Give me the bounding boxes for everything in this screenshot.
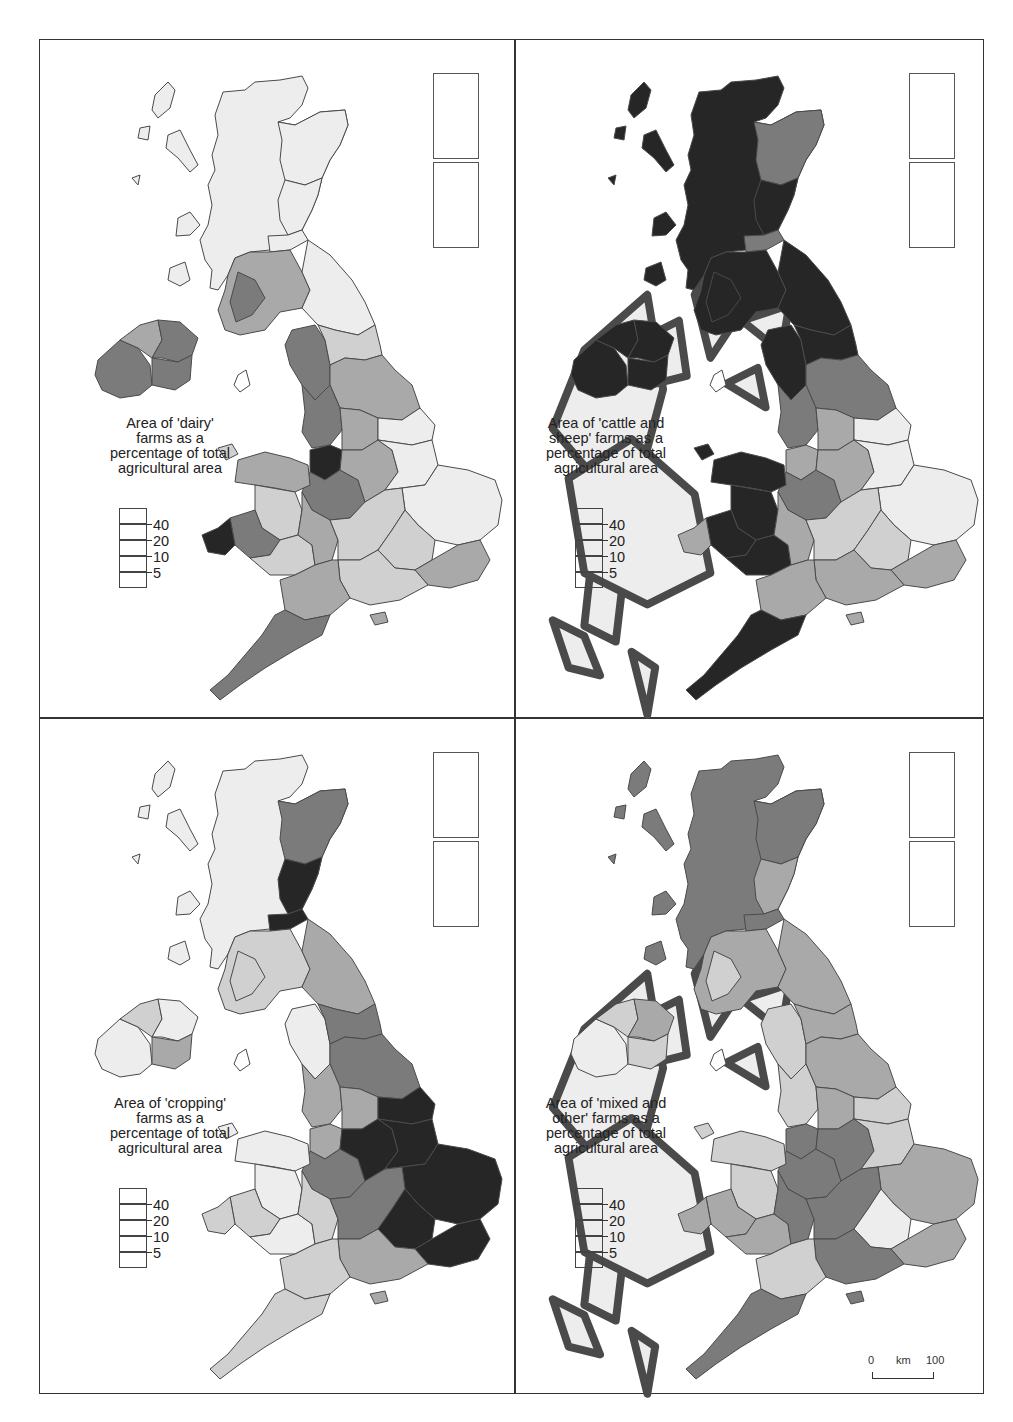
map-legend: 40 20 10 5 [575, 508, 655, 592]
caption-line-2: sheep' farms as a [516, 431, 696, 446]
legend-label-40: 40 [153, 1198, 169, 1212]
legend-swatch-over-40 [119, 1188, 147, 1204]
legend-tick [146, 1252, 152, 1253]
legend-label-20: 20 [609, 1214, 625, 1228]
caption-line-2: farms as a [80, 1111, 260, 1126]
region-grampian [754, 789, 824, 864]
legend-swatch-under-5 [119, 572, 147, 588]
region-western-isles [608, 82, 676, 286]
legend-label-5: 5 [609, 566, 617, 580]
map-caption: Area of 'cropping' farms as a percentage… [80, 1096, 260, 1156]
region-isle-of-wight [846, 1291, 864, 1304]
legend-swatch-5-10 [119, 556, 147, 572]
map-caption: Area of 'cattle and sheep' farms as a pe… [516, 416, 696, 476]
scale-end: 100 [926, 1354, 944, 1366]
legend-tick [146, 572, 152, 573]
legend-swatch-under-5 [575, 1252, 603, 1268]
map-panel-cropping: Area of 'cropping' farms as a percentage… [40, 719, 514, 1397]
legend-label-20: 20 [609, 534, 625, 548]
region-south-west [686, 610, 806, 700]
caption-line-2: farms as a [80, 431, 260, 446]
legend-tick [146, 1220, 152, 1221]
region-pembrokeshire [202, 1197, 235, 1234]
caption-line-4: agricultural area [80, 1141, 260, 1156]
scale-bar-line [872, 1372, 934, 1379]
region-borders [778, 240, 851, 335]
caption-line-4: agricultural area [516, 461, 696, 476]
legend-swatch-10-20 [119, 1220, 147, 1236]
region-pembrokeshire [678, 1197, 711, 1234]
caption-line-4: agricultural area [80, 461, 260, 476]
region-south-west [210, 1289, 330, 1379]
legend-label-10: 10 [153, 550, 169, 564]
map-panel-dairy: Area of 'dairy' farms as a percentage of… [40, 40, 514, 718]
legend-label-20: 20 [153, 534, 169, 548]
legend-swatch-5-10 [575, 1236, 603, 1252]
region-south-west [686, 1289, 806, 1379]
region-grampian [278, 110, 348, 185]
legend-tick [602, 540, 608, 541]
legend-swatch-over-40 [575, 508, 603, 524]
legend-swatch-5-10 [119, 1236, 147, 1252]
map-caption: Area of 'dairy' farms as a percentage of… [80, 416, 260, 476]
legend-tick [602, 1204, 608, 1205]
region-isle-of-wight [846, 612, 864, 625]
map-caption: Area of 'mixed and other' farms as a per… [516, 1096, 696, 1156]
region-western-isles [132, 82, 200, 286]
legend-tick [146, 540, 152, 541]
legend-swatch-20-40 [575, 1204, 603, 1220]
region-grampian [278, 789, 348, 864]
caption-line-2: other' farms as a [516, 1111, 696, 1126]
legend-swatch-under-5 [575, 572, 603, 588]
legend-tick [602, 1236, 608, 1237]
region-tayside-fife [754, 857, 798, 914]
legend-tick [602, 524, 608, 525]
legend-tick [146, 524, 152, 525]
legend-swatch-20-40 [119, 1204, 147, 1220]
legend-swatch-10-20 [575, 1220, 603, 1236]
region-grampian [754, 110, 824, 185]
scale-start: 0 [868, 1354, 874, 1366]
orkney-inset [433, 841, 479, 927]
region-isle-of-man [710, 1049, 726, 1071]
region-isle-of-man [710, 370, 726, 392]
orkney-inset [909, 841, 955, 927]
legend-swatch-under-5 [119, 1252, 147, 1268]
caption-line-3: percentage of total [516, 446, 696, 461]
region-western-isles [132, 761, 200, 965]
region-pembrokeshire [678, 518, 711, 555]
region-tayside-fife [278, 857, 322, 914]
caption-line-1: Area of 'cattle and [516, 416, 696, 431]
region-anglesey [694, 1123, 714, 1139]
caption-line-1: Area of 'dairy' [80, 416, 260, 431]
legend-label-5: 5 [153, 566, 161, 580]
region-tayside-fife [278, 178, 322, 235]
orkney-inset [909, 162, 955, 248]
caption-line-3: percentage of total [80, 446, 260, 461]
caption-line-4: agricultural area [516, 1141, 696, 1156]
map-legend: 40 20 10 5 [119, 508, 199, 592]
legend-label-5: 5 [153, 1246, 161, 1260]
shetland-inset [433, 752, 479, 838]
region-isle-of-man [234, 370, 250, 392]
region-western-isles [608, 761, 676, 965]
legend-label-40: 40 [609, 1198, 625, 1212]
legend-label-10: 10 [609, 550, 625, 564]
scale-bar: 0 km 100 [868, 1354, 968, 1384]
caption-line-3: percentage of total [80, 1126, 260, 1141]
legend-label-5: 5 [609, 1246, 617, 1260]
region-north-wales [711, 1131, 786, 1171]
map-legend: 40 20 10 5 [575, 1188, 655, 1272]
shetland-inset [909, 752, 955, 838]
region-borders [302, 919, 375, 1014]
region-isle-of-man [234, 1049, 250, 1071]
caption-line-3: percentage of total [516, 1126, 696, 1141]
legend-swatch-10-20 [575, 540, 603, 556]
legend-label-20: 20 [153, 1214, 169, 1228]
legend-label-40: 40 [153, 518, 169, 532]
legend-tick [146, 1236, 152, 1237]
map-panel-cattle-sheep: Area of 'cattle and sheep' farms as a pe… [516, 40, 990, 718]
shetland-inset [909, 73, 955, 159]
legend-swatch-over-40 [119, 508, 147, 524]
map-legend: 40 20 10 5 [119, 1188, 199, 1272]
